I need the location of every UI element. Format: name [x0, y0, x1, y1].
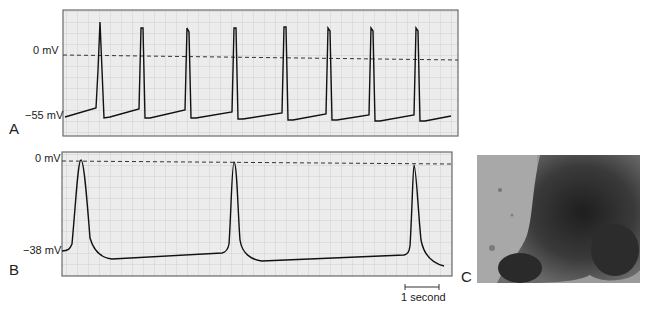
panel-c-letter: C: [461, 268, 472, 285]
panel-a-trace-box: [63, 10, 458, 136]
scale-bar-label: 1 second: [401, 291, 446, 303]
panel-b-threshold-mv-label: −38 mV: [23, 244, 61, 256]
scale-bar: [405, 284, 439, 290]
panel-a-resting-mv-label: −55 mV: [25, 109, 63, 121]
panel-b-letter: B: [9, 261, 19, 278]
figure-canvas: [0, 0, 647, 311]
panel-a-letter: A: [9, 120, 19, 137]
panel-a-zero-mv-label: 0 mV: [33, 44, 59, 56]
panel-b-zero-mv-label: 0 mV: [35, 152, 61, 164]
panel-b-trace-box: [62, 152, 452, 276]
panel-c-micrograph: [477, 155, 640, 283]
